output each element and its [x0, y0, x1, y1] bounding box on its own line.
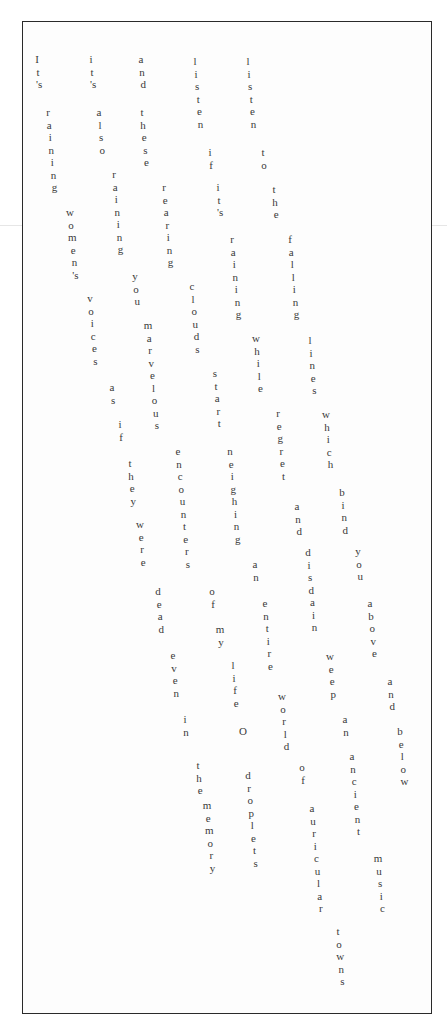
- poem-letter: y: [210, 863, 216, 874]
- poem-letter: f: [119, 432, 123, 443]
- poem-letter: s: [99, 132, 103, 143]
- poem-letter: v: [171, 663, 177, 674]
- poem-letter: n: [233, 272, 239, 283]
- poem-letter: i: [267, 636, 270, 647]
- poem-letter: n: [49, 145, 55, 156]
- poem-letter: O: [239, 726, 247, 737]
- poem-letter: a: [215, 393, 220, 404]
- poem-letter: s: [186, 559, 190, 570]
- poem-letter: f: [211, 599, 215, 610]
- poem-letter: d: [389, 701, 395, 712]
- poem-letter: o: [191, 306, 197, 317]
- poem-letter: n: [355, 814, 361, 825]
- poem-letter: n: [263, 611, 269, 622]
- poem-letter: l: [292, 272, 295, 283]
- poem-letter: v: [371, 636, 377, 647]
- poem-letter: u: [315, 866, 321, 877]
- poem-letter: s: [93, 356, 97, 367]
- poem-letter: i: [115, 194, 118, 205]
- poem-letter: i: [380, 891, 383, 902]
- poem-letter: o: [88, 306, 94, 317]
- poem-letter: r: [312, 828, 316, 839]
- poem-letter: n: [295, 514, 301, 525]
- poem-letter: l: [192, 294, 195, 305]
- poem-letter: t: [336, 926, 339, 937]
- poem-letter: e: [274, 209, 279, 220]
- poem-letter: r: [216, 406, 220, 417]
- poem-letter: a: [289, 247, 294, 258]
- poem-letter: g: [277, 433, 283, 444]
- poem-letter: i: [117, 219, 120, 230]
- poem-letter: i: [354, 789, 357, 800]
- poem-letter: l: [231, 660, 234, 671]
- poem-letter: s: [195, 81, 199, 92]
- poem-letter: c: [190, 281, 195, 292]
- poem-letter: d: [155, 586, 161, 597]
- poem-letter: f: [209, 160, 213, 171]
- poem-letter: o: [209, 586, 215, 597]
- poem-letter: o: [152, 395, 158, 406]
- poem-letter: r: [46, 107, 50, 118]
- poem-letter: c: [91, 331, 96, 342]
- poem-letter: e: [171, 650, 176, 661]
- poem-letter: a: [110, 382, 115, 393]
- poem-letter: n: [343, 727, 349, 738]
- poem-letter: o: [280, 704, 286, 715]
- poem-letter: r: [268, 648, 272, 659]
- poem-letter: i: [312, 610, 315, 621]
- poem-letter: l: [308, 335, 311, 346]
- poem-letter: a: [231, 247, 236, 258]
- poem-letter: h: [196, 773, 202, 784]
- poem-letter: n: [51, 170, 57, 181]
- poem-letter: r: [162, 182, 166, 193]
- poem-letter: e: [263, 598, 268, 609]
- poem-letter: d: [343, 525, 349, 536]
- poem-letter: e: [311, 373, 316, 384]
- poem-letter: e: [251, 833, 256, 844]
- poem-letter: u: [180, 496, 186, 507]
- poem-letter: n: [293, 297, 299, 308]
- poem-letter: i: [118, 419, 121, 430]
- poem-letter: g: [118, 244, 124, 255]
- poem-letter: i: [314, 841, 317, 852]
- poem-letter: a: [388, 676, 393, 687]
- poem-letter: l: [251, 820, 254, 831]
- poem-letter: h: [328, 459, 334, 470]
- poem-letter: i: [216, 182, 219, 193]
- poem-letter: o: [100, 145, 106, 156]
- poem-letter: e: [144, 157, 149, 168]
- poem-letter: d: [159, 624, 165, 635]
- poem-letter: l: [284, 729, 287, 740]
- poem-letter: p: [249, 808, 255, 819]
- poem-letter: l: [193, 56, 196, 67]
- poem-letter: s: [143, 145, 147, 156]
- poem-letter: e: [130, 483, 135, 494]
- poem-letter: e: [399, 739, 404, 750]
- poem-letter: r: [148, 345, 152, 356]
- poem-letter: c: [178, 471, 183, 482]
- poem-letter: e: [173, 675, 178, 686]
- poem-letter: e: [277, 421, 282, 432]
- poem-letter: t: [140, 107, 143, 118]
- poem-letter: c: [314, 853, 319, 864]
- poem-letter: 's: [36, 79, 42, 90]
- poem-letter: h: [128, 471, 134, 482]
- poem-letter: f: [288, 234, 292, 245]
- poem-letter: e: [206, 813, 211, 824]
- poem-letter: u: [357, 571, 363, 582]
- poem-letter: i: [49, 132, 52, 143]
- poem-letter: t: [218, 418, 221, 429]
- poem-letter: o: [336, 939, 342, 950]
- poem-letter: a: [253, 559, 258, 570]
- poem-letter: e: [142, 132, 147, 143]
- poem-letter: 's: [217, 207, 223, 218]
- poem-letter: b: [368, 611, 374, 622]
- poem-letter: s: [213, 368, 217, 379]
- poem-letter: r: [247, 783, 251, 794]
- poem-letter: a: [310, 597, 315, 608]
- poem-letter: g: [235, 534, 241, 545]
- poem-letter: I: [35, 54, 39, 65]
- poem-letter: o: [299, 762, 305, 773]
- poem-letter: n: [253, 572, 259, 583]
- poem-letter: i: [89, 54, 92, 65]
